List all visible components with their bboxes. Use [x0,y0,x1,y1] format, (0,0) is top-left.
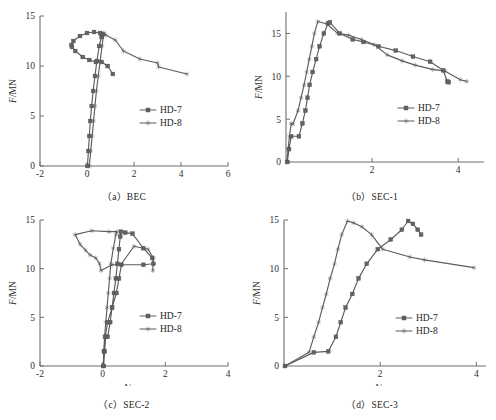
panel-c-caption: （c）SEC-2 [0,397,248,411]
data-marker-square [92,30,96,34]
x-tick-label: -2 [36,169,44,178]
data-marker-square [85,31,89,35]
data-marker-square [87,134,91,138]
data-marker-square [428,60,432,64]
legend-label-hd-8: HD-8 [416,326,438,336]
y-tick-label: 15 [270,215,280,225]
y-tick-label: 0 [276,157,281,167]
legend-marker-square [146,108,150,112]
data-marker-star [312,31,316,36]
data-marker-square [328,20,332,24]
data-marker-square [411,222,415,226]
data-marker-square [389,238,393,242]
data-marker-square [419,233,423,237]
x-tick-label: -2 [36,369,44,379]
data-marker-square [97,44,101,48]
x-tick-label: 4 [226,369,231,379]
x-tick-label: 2 [370,165,375,175]
data-marker-square [326,350,330,354]
data-marker-square [123,231,127,235]
data-marker-square [81,55,85,59]
data-marker-square [111,72,115,76]
data-marker-star [305,70,309,75]
plot-a-svg: 051015-20246Δ/mmF/MNHD-7HD-8 [0,0,248,178]
x-tick-label: 2 [378,369,383,379]
x-axis-title: Δ/mm [373,383,398,386]
figure-container: 051015-20246Δ/mmF/MNHD-7HD-8 （a）BEC 0510… [0,0,496,420]
plot-b-svg: 05101524Δ/mmF/MNHD-7HD-8 [248,0,496,178]
legend-marker-square [146,314,150,318]
data-marker-square [71,39,75,43]
data-marker-square [357,277,361,281]
legend-label-hd-7: HD-7 [418,103,440,113]
data-marker-star [114,232,118,237]
y-tick-label: 0 [30,361,35,371]
series-line-hd-8 [89,33,187,166]
data-marker-square [87,58,91,62]
y-tick-label: 15 [272,29,282,39]
legend-marker-square [404,106,408,110]
y-tick-label: 10 [26,61,36,71]
data-marker-star [99,268,103,273]
data-marker-square [312,350,316,354]
panel-sec3: 05101524Δ/mmF/MNHD-7HD-8 （d）SEC-3 [248,208,496,418]
legend-label-hd-7: HD-7 [416,313,438,323]
x-tick-label: 2 [163,369,168,379]
data-marker-square [303,109,307,113]
data-marker-square [339,320,343,324]
series-line-hd-8 [287,21,467,162]
data-marker-square [311,70,315,74]
panel-a-caption: （a）BEC [0,189,248,203]
data-marker-square [306,96,310,100]
data-marker-star [296,108,300,113]
data-marker-square [119,230,123,234]
y-tick-label: 0 [30,161,35,171]
y-tick-label: 5 [274,313,279,323]
data-marker-star [107,276,111,281]
legend-label-hd-8: HD-8 [160,324,182,334]
series-line-hd-7 [103,232,153,366]
legend-marker-square [402,316,406,320]
x-axis-title: Δ/mm [122,383,147,386]
data-marker-star [312,334,316,339]
legend-label-hd-8: HD-8 [418,116,440,126]
series-line-hd-8 [285,221,474,366]
data-marker-square [314,57,318,61]
data-marker-star [299,95,303,100]
x-tick-label: 4 [474,369,479,379]
data-marker-square [131,232,135,236]
series-line-hd-7 [287,22,448,162]
y-tick-label: 5 [30,313,35,323]
y-tick-label: 0 [274,361,279,371]
panel-d-caption: （d）SEC-3 [248,397,496,411]
data-marker-square [376,247,380,251]
data-marker-square [300,122,304,126]
data-marker-star [302,82,306,87]
data-marker-square [344,306,348,310]
data-marker-square [297,134,301,138]
y-tick-label: 10 [270,264,280,274]
data-marker-square [115,291,119,295]
data-marker-square [447,80,451,84]
data-marker-square [406,219,410,223]
data-marker-square [351,38,355,42]
data-marker-star [106,291,110,296]
legend-label-hd-8: HD-8 [160,118,182,128]
plot-d-svg: 05101524Δ/mmF/MNHD-7HD-8 [248,208,496,386]
legend-label-hd-7: HD-7 [160,311,182,321]
data-marker-square [308,83,312,87]
panel-b-caption: （b）SEC-1 [248,189,496,203]
y-tick-label: 15 [26,215,36,225]
y-tick-label: 10 [26,264,36,274]
y-tick-label: 5 [30,111,35,121]
x-tick-label: 2 [132,169,137,178]
data-marker-square [142,263,146,267]
data-marker-star [324,291,328,296]
panel-sec1: 05101524Δ/mmF/MNHD-7HD-8 （b）SEC-1 [248,0,496,210]
x-tick-label: 0 [85,169,90,178]
y-axis-title: F/MN [8,281,18,306]
data-marker-square [98,31,102,35]
y-tick-label: 5 [276,115,281,125]
data-marker-square [394,49,398,53]
data-marker-star [332,261,336,266]
